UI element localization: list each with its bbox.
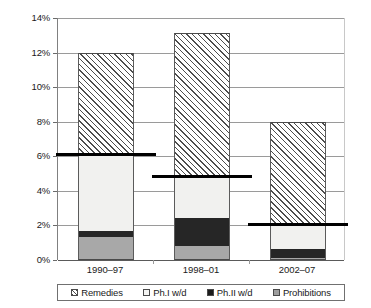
y-tick-label: 12% bbox=[4, 48, 50, 58]
bar-segment-ph2 bbox=[174, 218, 230, 246]
bar-segment-ph2 bbox=[78, 231, 134, 237]
legend-swatch-icon bbox=[273, 289, 280, 296]
legend-label: Ph.I w/d bbox=[153, 288, 186, 298]
bar-segment-ph2 bbox=[270, 249, 326, 259]
legend-label: Remedies bbox=[81, 288, 123, 298]
bar-1990–97 bbox=[78, 18, 134, 260]
bar-segment-remedies bbox=[174, 33, 230, 176]
plot-area bbox=[57, 18, 345, 260]
y-tick-label: 14% bbox=[4, 13, 50, 23]
bar-segment-remedies bbox=[78, 53, 134, 155]
y-tick-label: 0% bbox=[4, 255, 50, 265]
bar-segment-prohibitions bbox=[270, 258, 326, 260]
chart-legend: RemediesPh.I w/dPh.II w/dProhibitions bbox=[57, 284, 345, 301]
reference-marker-2002–07 bbox=[248, 223, 348, 226]
y-tick-label: 2% bbox=[4, 220, 50, 230]
legend-label: Prohibitions bbox=[283, 288, 331, 298]
y-tick-label: 4% bbox=[4, 186, 50, 196]
y-tick-label: 8% bbox=[4, 117, 50, 127]
bar-segment-remedies bbox=[270, 122, 326, 225]
stacked-bar-chart: 0%2%4%6%8%10%12%14% 1990–971998–012002–0… bbox=[0, 0, 371, 308]
x-tick-mark bbox=[153, 260, 154, 264]
y-tick-label: 6% bbox=[4, 151, 50, 161]
legend-swatch-icon bbox=[71, 289, 78, 296]
bar-1998–01 bbox=[174, 18, 230, 260]
x-tick-label: 1990–97 bbox=[60, 264, 150, 275]
legend-item-ph-i-w-d[interactable]: Ph.I w/d bbox=[143, 288, 186, 298]
bar-segment-prohibitions bbox=[174, 246, 230, 260]
y-tick-mark bbox=[53, 260, 57, 261]
reference-marker-1998–01 bbox=[152, 175, 252, 178]
y-tick-label: 10% bbox=[4, 82, 50, 92]
legend-item-remedies[interactable]: Remedies bbox=[71, 288, 123, 298]
x-tick-label: 2002–07 bbox=[252, 264, 342, 275]
x-tick-mark bbox=[249, 260, 250, 264]
bar-segment-ph1 bbox=[174, 176, 230, 218]
legend-item-ph-ii-w-d[interactable]: Ph.II w/d bbox=[207, 288, 253, 298]
reference-marker-1990–97 bbox=[56, 153, 156, 156]
legend-item-prohibitions[interactable]: Prohibitions bbox=[273, 288, 331, 298]
legend-swatch-icon bbox=[207, 289, 214, 296]
bar-segment-ph1 bbox=[78, 155, 134, 232]
bar-segment-ph1 bbox=[270, 225, 326, 249]
legend-label: Ph.II w/d bbox=[217, 288, 253, 298]
gridline-0% bbox=[58, 260, 344, 261]
legend-swatch-icon bbox=[143, 289, 150, 296]
x-tick-label: 1998–01 bbox=[156, 264, 246, 275]
bar-segment-prohibitions bbox=[78, 237, 134, 260]
